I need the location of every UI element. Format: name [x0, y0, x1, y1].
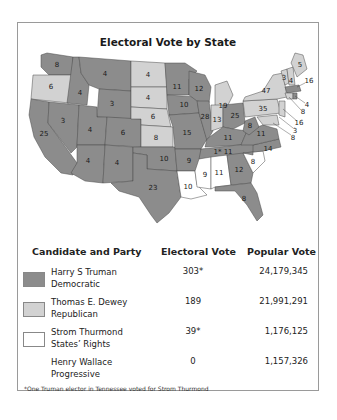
- popular-vote: 1,176,125: [244, 326, 308, 336]
- candidate-info: Henry Wallace Progressive: [51, 356, 112, 380]
- svg-text:4: 4: [146, 94, 151, 102]
- state-CT: [285, 93, 293, 99]
- svg-text:25: 25: [40, 130, 49, 138]
- candidate-name: Strom Thurmond: [51, 326, 123, 338]
- candidate-party: States’ Rights: [51, 338, 123, 350]
- svg-text:8: 8: [154, 134, 158, 142]
- legend-row-wallace: Henry Wallace Progressive 0 1,157,326: [18, 356, 318, 386]
- electoral-vote: 189: [178, 296, 208, 306]
- svg-text:11: 11: [173, 83, 182, 91]
- candidate-info: Strom Thurmond States’ Rights: [51, 326, 123, 350]
- electoral-vote: 39*: [178, 326, 208, 336]
- svg-text:6: 6: [121, 129, 126, 137]
- svg-text:23: 23: [149, 184, 158, 192]
- svg-text:35: 35: [259, 105, 268, 113]
- svg-text:4: 4: [305, 101, 310, 109]
- svg-text:11: 11: [224, 134, 233, 142]
- swatch-dewey: [23, 302, 45, 317]
- legend-row-truman: Harry S Truman Democratic 303* 24,179,34…: [18, 266, 318, 296]
- svg-text:14: 14: [264, 145, 273, 153]
- legend-row-thurmond: Strom Thurmond States’ Rights 39* 1,176,…: [18, 326, 318, 356]
- svg-text:12: 12: [235, 166, 244, 174]
- svg-text:6: 6: [151, 113, 156, 121]
- candidate-name: Henry Wallace: [51, 356, 112, 368]
- svg-text:3: 3: [61, 117, 65, 125]
- svg-text:47: 47: [262, 87, 271, 95]
- footnote: *One Truman elector in Tennessee voted f…: [24, 385, 209, 392]
- svg-text:16: 16: [295, 119, 304, 127]
- electoral-vote: 303*: [178, 266, 208, 276]
- candidate-info: Harry S Truman Democratic: [51, 266, 117, 290]
- svg-text:8: 8: [291, 134, 295, 142]
- svg-text:8: 8: [242, 195, 246, 203]
- state-NJ: [279, 101, 285, 117]
- svg-text:4: 4: [289, 77, 294, 85]
- svg-text:8: 8: [251, 158, 255, 166]
- popular-vote: 21,991,291: [244, 296, 308, 306]
- svg-text:8: 8: [301, 108, 305, 116]
- svg-text:28: 28: [201, 113, 210, 121]
- svg-text:10: 10: [160, 155, 169, 163]
- candidate-party: Progressive: [51, 368, 112, 380]
- svg-text:11: 11: [257, 130, 266, 138]
- header-popular: Popular Vote: [247, 246, 316, 257]
- header-electoral: Electoral Vote: [161, 246, 236, 257]
- svg-text:8: 8: [248, 122, 252, 130]
- svg-text:4: 4: [115, 159, 120, 167]
- svg-text:25: 25: [231, 112, 240, 120]
- electoral-vote: 0: [178, 356, 208, 366]
- chart-frame: Electoral Vote by State: [17, 22, 319, 391]
- candidate-name: Thomas E. Dewey: [51, 296, 127, 308]
- svg-text:4: 4: [86, 157, 91, 165]
- swatch-truman: [23, 272, 45, 287]
- header-candidate: Candidate and Party: [32, 246, 142, 257]
- svg-text:9: 9: [203, 171, 207, 179]
- candidate-name: Harry S Truman: [51, 266, 117, 278]
- svg-text:4: 4: [88, 126, 93, 134]
- svg-text:13: 13: [213, 116, 222, 124]
- us-electoral-map: 8 6 25 4 3 4 3 4 6 4 4 4 4 6 8 10 23 11 …: [18, 23, 318, 243]
- svg-text:6: 6: [49, 83, 54, 91]
- svg-text:10: 10: [184, 183, 193, 191]
- svg-text:3: 3: [110, 100, 114, 108]
- svg-text:19: 19: [219, 102, 228, 110]
- legend-row-dewey: Thomas E. Dewey Republican 189 21,991,29…: [18, 296, 318, 326]
- svg-text:5: 5: [298, 61, 302, 69]
- popular-vote: 1,157,326: [244, 356, 308, 366]
- svg-text:3: 3: [282, 74, 286, 82]
- svg-text:16: 16: [305, 77, 314, 85]
- popular-vote: 24,179,345: [244, 266, 308, 276]
- svg-text:11: 11: [215, 169, 224, 177]
- svg-text:15: 15: [183, 129, 192, 137]
- state-FL: [215, 183, 263, 221]
- swatch-thurmond: [23, 332, 45, 347]
- candidate-info: Thomas E. Dewey Republican: [51, 296, 127, 320]
- svg-text:4: 4: [78, 89, 83, 97]
- candidate-party: Republican: [51, 308, 127, 320]
- candidate-party: Democratic: [51, 278, 117, 290]
- svg-text:8: 8: [55, 61, 59, 69]
- svg-text:4: 4: [146, 71, 151, 79]
- svg-text:10: 10: [180, 101, 189, 109]
- svg-text:1* 11: 1* 11: [213, 148, 232, 156]
- svg-text:12: 12: [195, 85, 204, 93]
- svg-text:9: 9: [187, 157, 191, 165]
- svg-text:4: 4: [103, 70, 108, 78]
- state-MD: [257, 115, 279, 125]
